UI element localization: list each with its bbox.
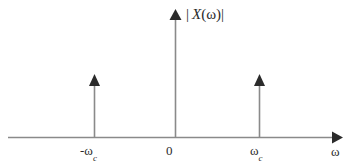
tick-label-positive-omega-c: ωc — [250, 144, 263, 161]
impulse-arrowhead-negative-omega-c — [89, 74, 100, 86]
tick-positive-omega-subscript: c — [259, 153, 263, 163]
y-axis-title-bar-close: | — [221, 6, 224, 22]
tick-positive-omega-symbol: ω — [250, 143, 259, 158]
y-axis-arrowhead-icon — [170, 9, 182, 20]
tick-negative-omega-subscript: c — [93, 153, 97, 163]
tick-label-negative-omega-c: -ωc — [80, 144, 97, 161]
x-axis-label: ω — [331, 145, 340, 158]
magnitude-spectrum-figure: |X(ω)| -ωc 0 ωc ω — [0, 0, 347, 167]
tick-zero-symbol: 0 — [166, 143, 173, 158]
tick-label-zero: 0 — [166, 144, 173, 157]
y-axis-title: |X(ω)| — [186, 7, 224, 22]
y-axis-title-variable: X — [192, 6, 201, 22]
tick-negative-omega-symbol: ω — [84, 143, 93, 158]
y-axis-title-omega: ω — [206, 6, 216, 22]
plot-canvas — [0, 0, 347, 167]
x-axis-arrowhead-icon — [332, 132, 343, 144]
impulse-arrowhead-positive-omega-c — [254, 74, 265, 86]
y-axis-title-bar-open: | — [186, 6, 189, 22]
